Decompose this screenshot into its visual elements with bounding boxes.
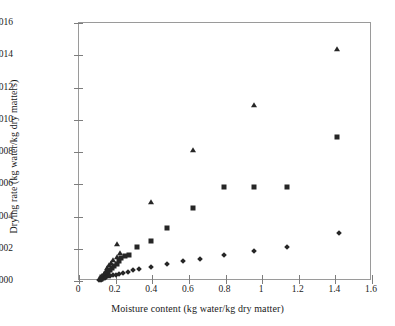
y-axis-tick-inner [79, 88, 83, 89]
data-point-diamond [197, 256, 203, 262]
x-axis-tick-label: 1.4 [328, 284, 340, 294]
data-point-square [284, 185, 289, 190]
x-axis-tick-inner [335, 275, 336, 279]
y-axis-tick-label: 0.0006 [0, 178, 13, 188]
y-axis-tick-inner [79, 249, 83, 250]
x-axis-tick-label: 0.2 [109, 284, 121, 294]
data-point-diamond [251, 248, 257, 254]
data-point-triangle [251, 102, 257, 107]
x-axis-tick-label: 0.6 [182, 284, 194, 294]
data-point-diamond [284, 244, 290, 250]
data-point-diamond [336, 230, 342, 236]
x-axis-tick-inner [372, 275, 373, 279]
y-axis-tick-label: 0.0000 [0, 275, 13, 285]
x-axis-tick-label: 1 [259, 284, 264, 294]
data-point-square [134, 244, 139, 249]
x-axis-tick-inner [226, 275, 227, 279]
plot-area [78, 22, 371, 280]
x-axis-title: Moisture content (kg water/kg dry matter… [0, 303, 395, 314]
data-point-diamond [164, 261, 170, 267]
y-axis-tick-inner [79, 184, 83, 185]
data-point-triangle [190, 148, 196, 153]
y-axis-tick-label: 0.0010 [0, 114, 13, 124]
x-axis-tick-inner [262, 275, 263, 279]
data-point-square [221, 184, 226, 189]
x-axis-tick-label: 1.6 [365, 284, 377, 294]
y-axis-tick-label: 0.0012 [0, 82, 13, 92]
y-axis-tick-label: 0.0004 [0, 211, 13, 221]
data-point-square [126, 252, 131, 257]
data-point-square [251, 185, 256, 190]
y-axis-tick-label: 0.0016 [0, 17, 13, 27]
x-axis-tick-inner [152, 275, 153, 279]
y-axis-tick-inner [79, 152, 83, 153]
data-point-triangle [334, 46, 340, 51]
data-point-diamond [181, 258, 187, 264]
drying-rate-scatter-figure: Moisture content (kg water/kg dry matter… [0, 0, 395, 326]
x-axis-tick-inner [299, 275, 300, 279]
x-axis-tick-inner [189, 275, 190, 279]
data-point-square [149, 239, 154, 244]
x-axis-tick-label: 1.2 [292, 284, 304, 294]
data-point-square [191, 205, 196, 210]
y-axis-tick-label: 0.0014 [0, 49, 13, 59]
data-point-triangle [114, 241, 120, 246]
x-axis-tick-label: 0 [76, 284, 81, 294]
data-point-diamond [221, 252, 227, 258]
x-axis-tick-label: 0.8 [219, 284, 231, 294]
y-axis-tick-inner [79, 217, 83, 218]
y-axis-tick-label: 0.0008 [0, 146, 13, 156]
data-point-square [335, 134, 340, 139]
y-axis-tick-label: 0.0002 [0, 243, 13, 253]
x-axis-tick-label: 0.4 [145, 284, 157, 294]
data-point-square [164, 225, 169, 230]
data-point-diamond [148, 264, 154, 270]
y-axis-tick-inner [79, 55, 83, 56]
x-axis-tick-inner [79, 275, 80, 279]
y-axis-tick-inner [79, 120, 83, 121]
data-point-triangle [148, 199, 154, 204]
y-axis-tick-inner [79, 23, 83, 24]
data-point-diamond [137, 266, 143, 272]
